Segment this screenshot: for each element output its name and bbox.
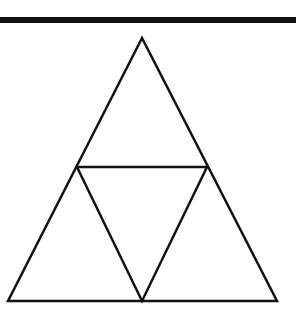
triangle-diagram [0, 0, 296, 311]
outer-triangle [8, 38, 277, 301]
inner-inverted-triangle [77, 167, 207, 301]
